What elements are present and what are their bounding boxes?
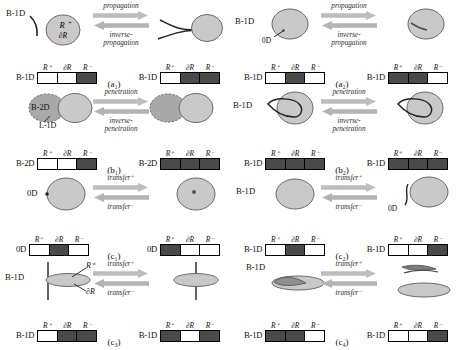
arrow-left-icon: [321, 107, 377, 116]
panel-c3-forward-label: transfer⁺: [92, 260, 150, 268]
col-header-rplus: R⁺: [388, 322, 408, 330]
svg-text:R: R: [58, 20, 65, 30]
panel-a2-reverse-label: inverse- propagation: [320, 31, 378, 47]
col-header-rplus: R⁺: [37, 64, 57, 72]
panel-b2-forward-label: penetration: [320, 88, 378, 96]
panel-b1-forward-label: penetration: [92, 88, 150, 96]
panel-c1: transfer⁺ transfer⁻ 0D 0D R⁺ ∂R R⁻: [0, 172, 228, 258]
panel-c3-diagram: transfer⁺ transfer⁻ B-1D R⁺ ∂R: [0, 258, 228, 320]
panel-c1-forward-label: transfer⁺: [92, 174, 150, 182]
col-header-dr: ∂R: [49, 236, 69, 244]
panel-c4: transfer⁺ transfer⁻ B-1D B-1D R⁺ ∂R R⁻: [228, 258, 456, 344]
panel-c1-reverse-label: transfer⁻: [92, 203, 150, 211]
panel-c4-forward-label: transfer⁺: [320, 260, 378, 268]
col-header-rplus: R⁺: [160, 322, 180, 330]
col-header-rminus: R⁻: [77, 64, 97, 72]
panel-c4-diagram: transfer⁺ transfer⁻ B-1D: [228, 258, 456, 320]
col-header-dr: ∂R: [285, 150, 305, 158]
table-header: R⁺ ∂R R⁻: [265, 236, 325, 244]
panel-c2-left-annotation: B-1D: [236, 186, 255, 196]
col-header-rminus: R⁻: [305, 322, 325, 330]
arrow-right-icon: [321, 97, 377, 106]
col-header-rminus: R⁻: [428, 150, 448, 158]
panel-b2-reverse-label: inverse- penetration: [320, 117, 378, 133]
table-header: R⁺ ∂R R⁻: [265, 150, 325, 158]
col-header-dr: ∂R: [408, 322, 428, 330]
col-header-rplus: R⁺: [265, 322, 285, 330]
table-header: R⁺ ∂R R⁻: [388, 64, 448, 72]
col-header-rplus: R⁺: [388, 64, 408, 72]
col-header-dr: ∂R: [57, 150, 77, 158]
table-header: R⁺ ∂R R⁻: [37, 322, 97, 330]
arrow-right-icon: [93, 269, 149, 278]
col-header-rplus: R⁺: [160, 150, 180, 158]
col-header-dr: ∂R: [180, 322, 200, 330]
panel-b1-l1d-annotation: L-1D: [39, 121, 56, 130]
arrow-left-icon: [321, 279, 377, 288]
arrow-right-icon: [321, 183, 377, 192]
panel-b1-reverse-label: inverse- penetration: [92, 117, 150, 133]
col-header-rminus: R⁻: [69, 236, 89, 244]
table-header: R⁺ ∂R R⁻: [160, 236, 220, 244]
col-header-rplus: R⁺: [37, 150, 57, 158]
panel-c1-diagram: transfer⁺ transfer⁻ 0D: [0, 172, 228, 234]
col-header-rplus: R⁺: [37, 322, 57, 330]
col-header-rminus: R⁻: [305, 236, 325, 244]
panel-c3-dr-annotation: ∂R: [86, 287, 95, 296]
panel-a2-diagram: propagation inverse- propagation B-1D 0D: [228, 0, 456, 62]
panel-c1-left-annotation: 0D: [27, 188, 38, 198]
arrow-left-icon: [93, 21, 149, 30]
col-header-rplus: R⁺: [160, 64, 180, 72]
table-header: R⁺ ∂R R⁻: [388, 150, 448, 158]
col-header-rminus: R⁻: [428, 236, 448, 244]
arrow-left-icon: [93, 279, 149, 288]
arrow-left-icon: [93, 193, 149, 202]
col-header-rplus: R⁺: [265, 64, 285, 72]
col-header-rminus: R⁻: [200, 150, 220, 158]
col-header-rplus: R⁺: [388, 150, 408, 158]
panel-b2-arrows: penetration inverse- penetration: [320, 88, 378, 133]
col-header-rminus: R⁻: [77, 322, 97, 330]
arrow-left-icon: [321, 193, 377, 202]
col-header-rminus: R⁻: [200, 64, 220, 72]
svg-text:∂R: ∂R: [59, 31, 68, 40]
arrow-right-icon: [93, 183, 149, 192]
table-header: R⁺ ∂R R⁻: [29, 236, 89, 244]
arrow-left-icon: [93, 107, 149, 116]
col-header-rplus: R⁺: [265, 236, 285, 244]
panel-c4-caption: (c₄): [228, 337, 456, 347]
col-header-dr: ∂R: [57, 64, 77, 72]
col-header-rminus: R⁻: [428, 64, 448, 72]
col-header-rplus: R⁺: [388, 236, 408, 244]
col-header-rminus: R⁻: [428, 322, 448, 330]
panel-a2-left-annotation: B-1D: [235, 16, 254, 26]
col-header-rminus: R⁻: [305, 150, 325, 158]
col-header-rplus: R⁺: [29, 236, 49, 244]
panel-b1-b2d-annotation: B-2D: [31, 103, 50, 112]
panel-b1-arrows: penetration inverse- penetration: [92, 88, 150, 133]
panel-c3-rplus-annotation: R⁺: [86, 261, 95, 270]
panel-c3: transfer⁺ transfer⁻ B-1D R⁺ ∂R B-1D R⁺ ∂…: [0, 258, 228, 344]
col-header-rminus: R⁻: [77, 150, 97, 158]
col-header-dr: ∂R: [180, 150, 200, 158]
panel-a1-forward-label: propagation: [92, 2, 150, 10]
panel-c4-reverse-label: transfer⁻: [320, 289, 378, 297]
panel-a1-arrows: propagation inverse- propagation: [92, 2, 150, 47]
table-header: R⁺ ∂R R⁻: [160, 64, 220, 72]
panel-a1-left-annotation: B-1D: [6, 8, 25, 18]
arrow-left-icon: [321, 21, 377, 30]
col-header-dr: ∂R: [57, 322, 77, 330]
panel-c1-arrows: transfer⁺ transfer⁻: [92, 174, 150, 211]
panel-c4-left-annotation: B-1D: [246, 262, 265, 272]
panel-c3-reverse-label: transfer⁻: [92, 289, 150, 297]
table-header: R⁺ ∂R R⁻: [160, 150, 220, 158]
panel-a1-diagram: R + ∂R propagation inverse- propagation: [0, 0, 228, 62]
panel-c2-reverse-label: transfer⁻: [320, 203, 378, 211]
arrow-right-icon: [93, 11, 149, 20]
col-header-rminus: R⁻: [200, 322, 220, 330]
col-header-dr: ∂R: [285, 322, 305, 330]
panel-b1-diagram: penetration inverse- penetration B-2D L-…: [0, 86, 228, 148]
col-header-dr: ∂R: [285, 64, 305, 72]
panel-b1: penetration inverse- penetration B-2D L-…: [0, 86, 228, 172]
table-header: R⁺ ∂R R⁻: [265, 322, 325, 330]
